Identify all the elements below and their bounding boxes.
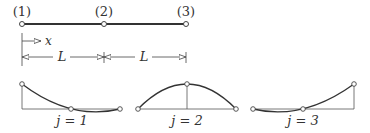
- shape-function-1: j = 1: [20, 82, 123, 128]
- dimension-lines: L L: [22, 49, 186, 64]
- dimension-label-2: L: [139, 49, 149, 64]
- node-1-label: (1): [13, 4, 31, 19]
- node-2-label: (2): [95, 4, 113, 19]
- shape-function-3: j = 3: [251, 82, 357, 128]
- element-bar: (1) (2) (3): [13, 4, 195, 27]
- x-axis-arrow: x: [22, 33, 52, 66]
- node-3-label: (3): [177, 4, 195, 19]
- shape-function-2: j = 2: [136, 82, 239, 128]
- shape-function-2-label: j = 2: [168, 113, 202, 128]
- shape-function-1-label: j = 1: [53, 113, 87, 128]
- shape-function-3-label: j = 3: [284, 113, 318, 128]
- element-diagram: (1) (2) (3) x L L j = 1 j = 2: [0, 0, 370, 133]
- node-3-marker: [184, 22, 189, 27]
- x-axis-label: x: [45, 34, 52, 48]
- dimension-label-1: L: [57, 49, 67, 64]
- node-2-marker: [102, 22, 107, 27]
- node-1-marker: [20, 22, 25, 27]
